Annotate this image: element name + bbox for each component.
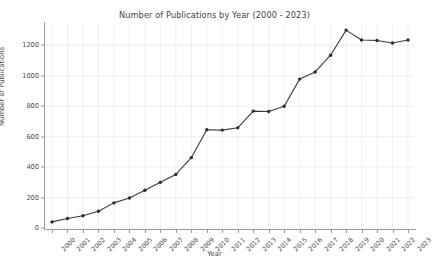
x-tick-mark [315,230,316,233]
y-axis-label: Number of Publications [0,47,6,126]
x-tick-mark [300,230,301,233]
x-tick-mark [253,230,254,233]
plot-area [45,24,415,228]
x-tick-mark [207,230,208,233]
x-tick-mark [191,230,192,233]
x-tick-mark [222,230,223,233]
x-tick-mark [129,230,130,233]
x-tick-mark [393,230,394,233]
x-tick-mark [331,230,332,233]
data-series-publications [45,24,415,228]
x-axis-label: Year [0,250,429,258]
x-tick-mark [269,230,270,233]
x-tick-mark [160,230,161,233]
x-tick-mark [238,230,239,233]
x-tick-mark [114,230,115,233]
x-tick-mark [284,230,285,233]
x-tick-mark [362,230,363,233]
x-tick-mark [346,230,347,233]
x-tick-mark [377,230,378,233]
x-tick-mark [83,230,84,233]
x-tick-mark [98,230,99,233]
x-tick-mark [408,230,409,233]
x-tick-mark [176,230,177,233]
x-tick-mark [67,230,68,233]
x-tick-mark [52,230,53,233]
x-tick-mark [145,230,146,233]
